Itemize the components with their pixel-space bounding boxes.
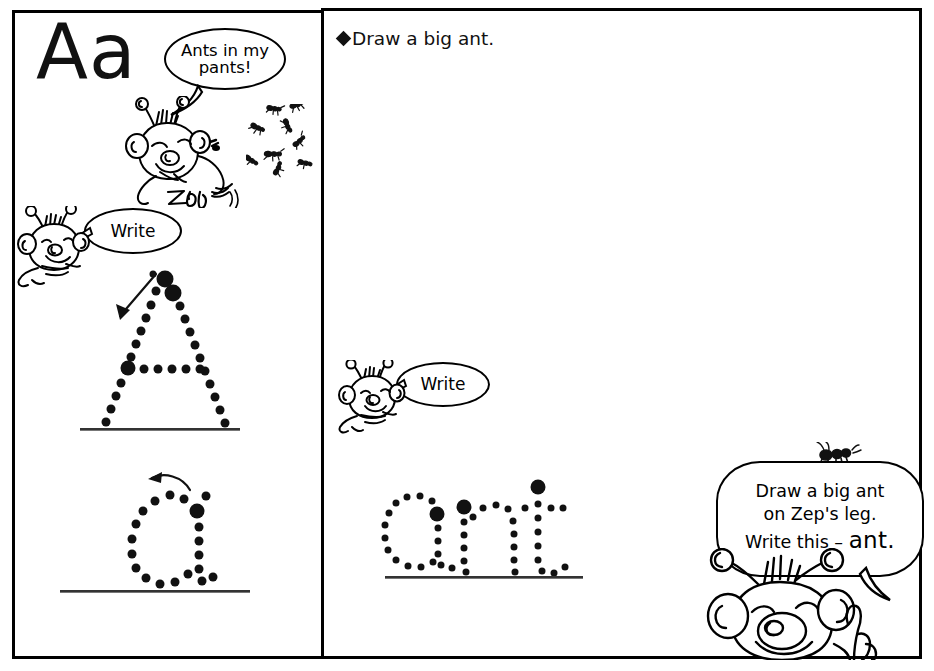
bubble-write-label: Write [421,375,466,393]
zep-bear-illustration [112,96,244,208]
bubble-line-2: pants! [199,58,252,77]
speech-bubble-ants-in-my-pants: Ants in my pants! [164,28,286,90]
bear-pointing-illustration-left [14,206,100,288]
writing-baseline-lowercase-a [60,590,250,593]
bear-pointing-illustration-right [336,360,414,434]
instruction-draw-a-big-ant: Draw a big ant. [338,28,494,49]
stroke-direction-arrow-lowercase-a [140,470,196,498]
writing-baseline-uppercase-a [80,428,240,431]
diamond-bullet-icon [336,31,352,47]
worksheet-page: Aa Ants in my pants! [0,0,934,671]
page-title-letters: Aa [36,14,137,90]
zep-bear-illustration-bottom [686,548,886,660]
bubble-line-2: on Zep's leg. [763,503,876,526]
ants-cluster-illustration [246,104,322,192]
stroke-direction-arrow-uppercase-a [104,270,168,332]
bubble-line-1: Ants in my [181,41,269,60]
writing-baseline-word-ant [385,576,583,579]
bubble-write-label: Write [111,222,156,240]
bubble-line-1: Draw a big ant [756,480,885,503]
instruction-text: Draw a big ant. [352,28,494,49]
